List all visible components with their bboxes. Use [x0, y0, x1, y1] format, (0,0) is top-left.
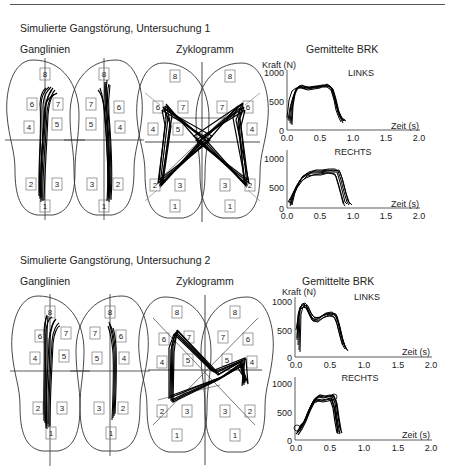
svg-text:8: 8 [108, 308, 113, 317]
svg-text:3: 3 [178, 181, 183, 190]
svg-text:8: 8 [43, 70, 48, 79]
svg-text:8: 8 [233, 308, 238, 317]
ylabel: Kraft (N) [282, 287, 316, 297]
svg-text:2.0: 2.0 [425, 443, 438, 453]
chart-u2-rechts: RECHTS 1000 500 0 0.0 0.5 1.0 1.5 2.0 Ze… [272, 373, 437, 453]
svg-text:2: 2 [29, 180, 34, 189]
svg-text:0.0: 0.0 [281, 211, 294, 221]
svg-text:1000: 1000 [264, 154, 284, 164]
svg-text:1.5: 1.5 [392, 360, 405, 370]
svg-text:1: 1 [233, 431, 238, 440]
svg-text:7: 7 [220, 103, 225, 112]
svg-text:7: 7 [89, 100, 94, 109]
svg-text:7: 7 [64, 329, 69, 338]
svg-text:2: 2 [36, 404, 41, 413]
svg-text:5: 5 [89, 120, 94, 129]
svg-text:6: 6 [119, 332, 124, 341]
svg-text:4: 4 [118, 123, 123, 132]
svg-text:Zeit (s): Zeit (s) [402, 347, 430, 357]
s1-ganglinien-left-foot: 8 6 7 4 5 2 3 1 [5, 58, 85, 220]
svg-text:500: 500 [269, 183, 284, 193]
svg-text:4: 4 [151, 125, 156, 134]
svg-text:1.5: 1.5 [380, 133, 393, 143]
svg-text:500: 500 [277, 408, 292, 418]
svg-text:1: 1 [109, 429, 114, 438]
svg-text:Zeit (s): Zeit (s) [391, 121, 419, 131]
svg-text:8: 8 [173, 72, 178, 81]
svg-text:Zeit (s): Zeit (s) [391, 199, 419, 209]
svg-text:1.0: 1.0 [358, 360, 371, 370]
figure-canvas: 8 6 7 4 5 2 3 1 8 7 6 5 4 [0, 0, 455, 472]
svg-text:3: 3 [60, 404, 65, 413]
panel-label-rechts: RECHTS [334, 147, 371, 157]
svg-text:1.5: 1.5 [380, 211, 393, 221]
svg-text:8: 8 [175, 308, 180, 317]
svg-text:6: 6 [156, 103, 161, 112]
svg-text:4: 4 [27, 123, 32, 132]
svg-text:0.5: 0.5 [314, 211, 327, 221]
svg-text:2: 2 [116, 180, 121, 189]
svg-text:0.5: 0.5 [324, 360, 337, 370]
svg-text:3: 3 [97, 404, 102, 413]
svg-text:7: 7 [93, 329, 98, 338]
svg-text:6: 6 [246, 335, 251, 344]
svg-text:8: 8 [102, 70, 107, 79]
svg-text:7: 7 [56, 100, 61, 109]
svg-text:1: 1 [102, 202, 107, 211]
svg-text:Zeit (s): Zeit (s) [402, 430, 430, 440]
svg-text:4: 4 [250, 125, 255, 134]
svg-text:4: 4 [160, 358, 165, 367]
svg-text:4: 4 [250, 358, 255, 367]
svg-text:4: 4 [122, 354, 127, 363]
s2-zyklogramm: 8 6 7 4 5 2 3 1 8 7 6 5 4 3 2 1 [139, 295, 274, 465]
panel-label-links: LINKS [354, 292, 380, 302]
svg-text:7: 7 [221, 333, 226, 342]
svg-text:4: 4 [33, 354, 38, 363]
svg-text:8: 8 [228, 72, 233, 81]
svg-text:1000: 1000 [264, 68, 284, 78]
svg-text:7: 7 [181, 103, 186, 112]
svg-text:2: 2 [121, 404, 126, 413]
svg-text:0.5: 0.5 [314, 133, 327, 143]
svg-text:1.5: 1.5 [392, 443, 405, 453]
svg-text:500: 500 [277, 326, 292, 336]
panel-label-links: LINKS [348, 68, 374, 78]
svg-text:0.0: 0.0 [281, 133, 294, 143]
svg-text:3: 3 [185, 407, 190, 416]
svg-text:5: 5 [95, 354, 100, 363]
svg-text:6: 6 [246, 103, 251, 112]
svg-text:8: 8 [48, 308, 53, 317]
svg-text:1: 1 [49, 429, 54, 438]
svg-text:2: 2 [153, 181, 158, 190]
svg-text:2.0: 2.0 [413, 133, 426, 143]
svg-text:5: 5 [62, 352, 67, 361]
svg-text:2: 2 [248, 407, 253, 416]
svg-text:6: 6 [38, 332, 43, 341]
panel-label-rechts: RECHTS [341, 373, 378, 383]
svg-text:0.0: 0.0 [290, 443, 303, 453]
svg-text:3: 3 [223, 181, 228, 190]
svg-text:2: 2 [160, 407, 165, 416]
svg-text:500: 500 [269, 97, 284, 107]
svg-text:1.0: 1.0 [347, 133, 360, 143]
svg-text:5: 5 [55, 120, 60, 129]
svg-text:1000: 1000 [272, 379, 292, 389]
svg-text:1000: 1000 [272, 297, 292, 307]
svg-text:3: 3 [223, 407, 228, 416]
chart-u1-rechts: RECHTS 1000 500 0 0.0 0.5 1.0 1.5 2.0 Ze… [264, 147, 425, 221]
svg-text:1: 1 [173, 202, 178, 211]
svg-text:0.0: 0.0 [290, 360, 303, 370]
svg-text:1: 1 [175, 431, 180, 440]
svg-text:6: 6 [117, 103, 122, 112]
svg-text:1: 1 [228, 202, 233, 211]
svg-text:2.0: 2.0 [413, 211, 426, 221]
chart-u2-links: Kraft (N) LINKS 1000 500 0 0.0 0.5 1.0 1… [272, 287, 437, 370]
svg-text:1.0: 1.0 [347, 211, 360, 221]
svg-text:1: 1 [43, 202, 48, 211]
svg-text:0.5: 0.5 [324, 443, 337, 453]
svg-text:3: 3 [55, 180, 60, 189]
svg-text:3: 3 [90, 180, 95, 189]
s1-zyklogramm: 8 6 7 4 5 2 3 1 8 7 6 4 3 2 1 [137, 62, 269, 222]
svg-text:6: 6 [162, 335, 167, 344]
svg-text:2.0: 2.0 [425, 360, 438, 370]
